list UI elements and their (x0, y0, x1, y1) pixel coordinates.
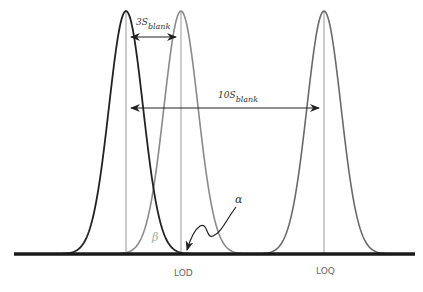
ten-s-label: 10Sblank (218, 90, 258, 104)
three-s-label: 3Sblank (136, 17, 171, 31)
loq-label: LOQ (316, 266, 335, 276)
lod-label: LOD (174, 268, 193, 278)
beta-label: β (151, 231, 158, 244)
alpha-label: α (235, 193, 243, 206)
diagram-canvas: 3Sblank 10Sblank α β LOD LOQ (0, 0, 423, 292)
alpha-arrow (187, 207, 236, 250)
detection-limit-diagram: 3Sblank 10Sblank α β LOD LOQ (0, 0, 423, 292)
